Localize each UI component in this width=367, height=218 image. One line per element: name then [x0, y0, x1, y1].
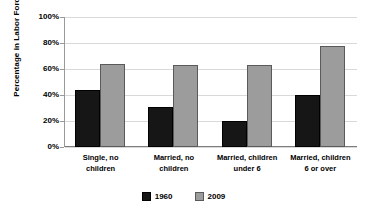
x-axis-labels: Single, nochildrenMarried, nochildrenMar… — [64, 152, 357, 184]
gridline — [65, 147, 357, 148]
bar-group — [212, 17, 285, 147]
legend-label: 1960 — [155, 192, 173, 201]
x-tick-label-line: Married, children — [277, 152, 363, 163]
bar-2009-3 — [247, 65, 272, 147]
bar-group — [138, 17, 211, 147]
bar-1960-2 — [148, 107, 173, 147]
legend-swatch-icon — [142, 192, 151, 201]
y-tick-label: 40% — [15, 91, 59, 99]
chart-legend: 19602009 — [0, 192, 367, 201]
legend-label: 2009 — [208, 192, 226, 201]
x-tick-label-line: 6 or over — [277, 163, 363, 174]
bar-group — [285, 17, 358, 147]
bars-layer — [65, 17, 357, 147]
y-tick-label: 100% — [15, 13, 59, 21]
bar-1960-4 — [295, 95, 320, 147]
bar-chart: Percentage in Labor Force 0%20%40%60%80%… — [0, 0, 367, 218]
legend-item-2009[interactable]: 2009 — [195, 192, 226, 201]
bar-2009-1 — [100, 64, 125, 147]
legend-swatch-icon — [195, 192, 204, 201]
bar-1960-1 — [75, 90, 100, 147]
bar-group — [65, 17, 138, 147]
y-tick-mark — [60, 147, 64, 148]
bar-2009-4 — [320, 46, 345, 147]
bar-2009-2 — [173, 65, 198, 147]
bar-1960-3 — [222, 121, 247, 147]
x-tick-label: Married, children6 or over — [277, 152, 363, 174]
y-tick-label: 0% — [15, 143, 59, 151]
legend-item-1960[interactable]: 1960 — [142, 192, 173, 201]
y-tick-label: 80% — [15, 39, 59, 47]
y-tick-label: 60% — [15, 65, 59, 73]
y-tick-label: 20% — [15, 117, 59, 125]
